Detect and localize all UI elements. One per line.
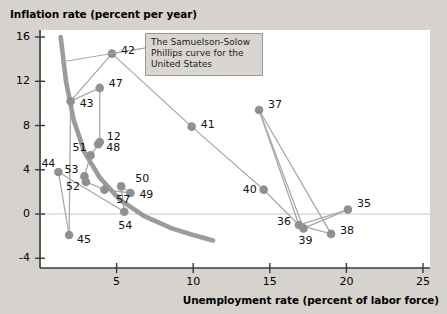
data-point-label: 40 [243, 183, 257, 196]
data-point-label: 52 [66, 180, 80, 193]
x-tick-label: 5 [105, 275, 129, 288]
data-point-label: 48 [106, 141, 120, 154]
x-tick-label: 25 [411, 275, 435, 288]
y-tick-label: 8 [8, 119, 30, 132]
data-point-label: 50 [135, 172, 149, 185]
data-point [259, 185, 268, 194]
data-point-label: 47 [109, 77, 123, 90]
x-tick-label: 15 [258, 275, 282, 288]
data-point-label: 54 [118, 219, 132, 232]
annotation-callout: The Samuelson-Solow Phillips curve for t… [145, 33, 263, 76]
data-point [95, 84, 104, 93]
data-point [117, 182, 126, 191]
data-point [255, 106, 264, 115]
data-point-label: 44 [41, 157, 55, 170]
data-point [120, 207, 129, 216]
data-point [65, 231, 74, 240]
y-tick-label: -4 [8, 251, 30, 264]
data-point-label: 42 [121, 44, 135, 57]
x-tick-label: 20 [334, 275, 358, 288]
data-point-label: 37 [268, 98, 282, 111]
data-point [80, 172, 89, 181]
data-point [327, 230, 336, 239]
data-point [100, 185, 109, 194]
data-point [86, 151, 95, 160]
y-tick-label: 0 [8, 207, 30, 220]
y-tick-label: 16 [8, 30, 30, 43]
data-point-label: 43 [80, 97, 94, 110]
data-point-label: 38 [340, 224, 354, 237]
y-tick-label: 4 [8, 163, 30, 176]
data-point-label: 39 [299, 234, 313, 247]
data-point-label: 35 [357, 197, 371, 210]
x-tick-label: 10 [181, 275, 205, 288]
data-point-label: 36 [277, 215, 291, 228]
data-point [344, 205, 353, 214]
data-point-label: 57 [116, 193, 130, 206]
data-point-label: 53 [64, 163, 78, 176]
data-point [95, 138, 104, 147]
data-point-label: 45 [77, 233, 91, 246]
chart-root: Inflation rate (percent per year) Unempl… [0, 0, 447, 314]
data-points-layer [54, 49, 352, 239]
data-point-label: 41 [201, 118, 215, 131]
y-tick-label: 12 [8, 74, 30, 87]
data-point-label: 49 [139, 188, 153, 201]
data-point [299, 224, 308, 233]
data-point [187, 122, 196, 131]
data-point [66, 97, 75, 106]
data-point-label: 12 [107, 130, 121, 143]
data-point-label: 51 [73, 141, 87, 154]
